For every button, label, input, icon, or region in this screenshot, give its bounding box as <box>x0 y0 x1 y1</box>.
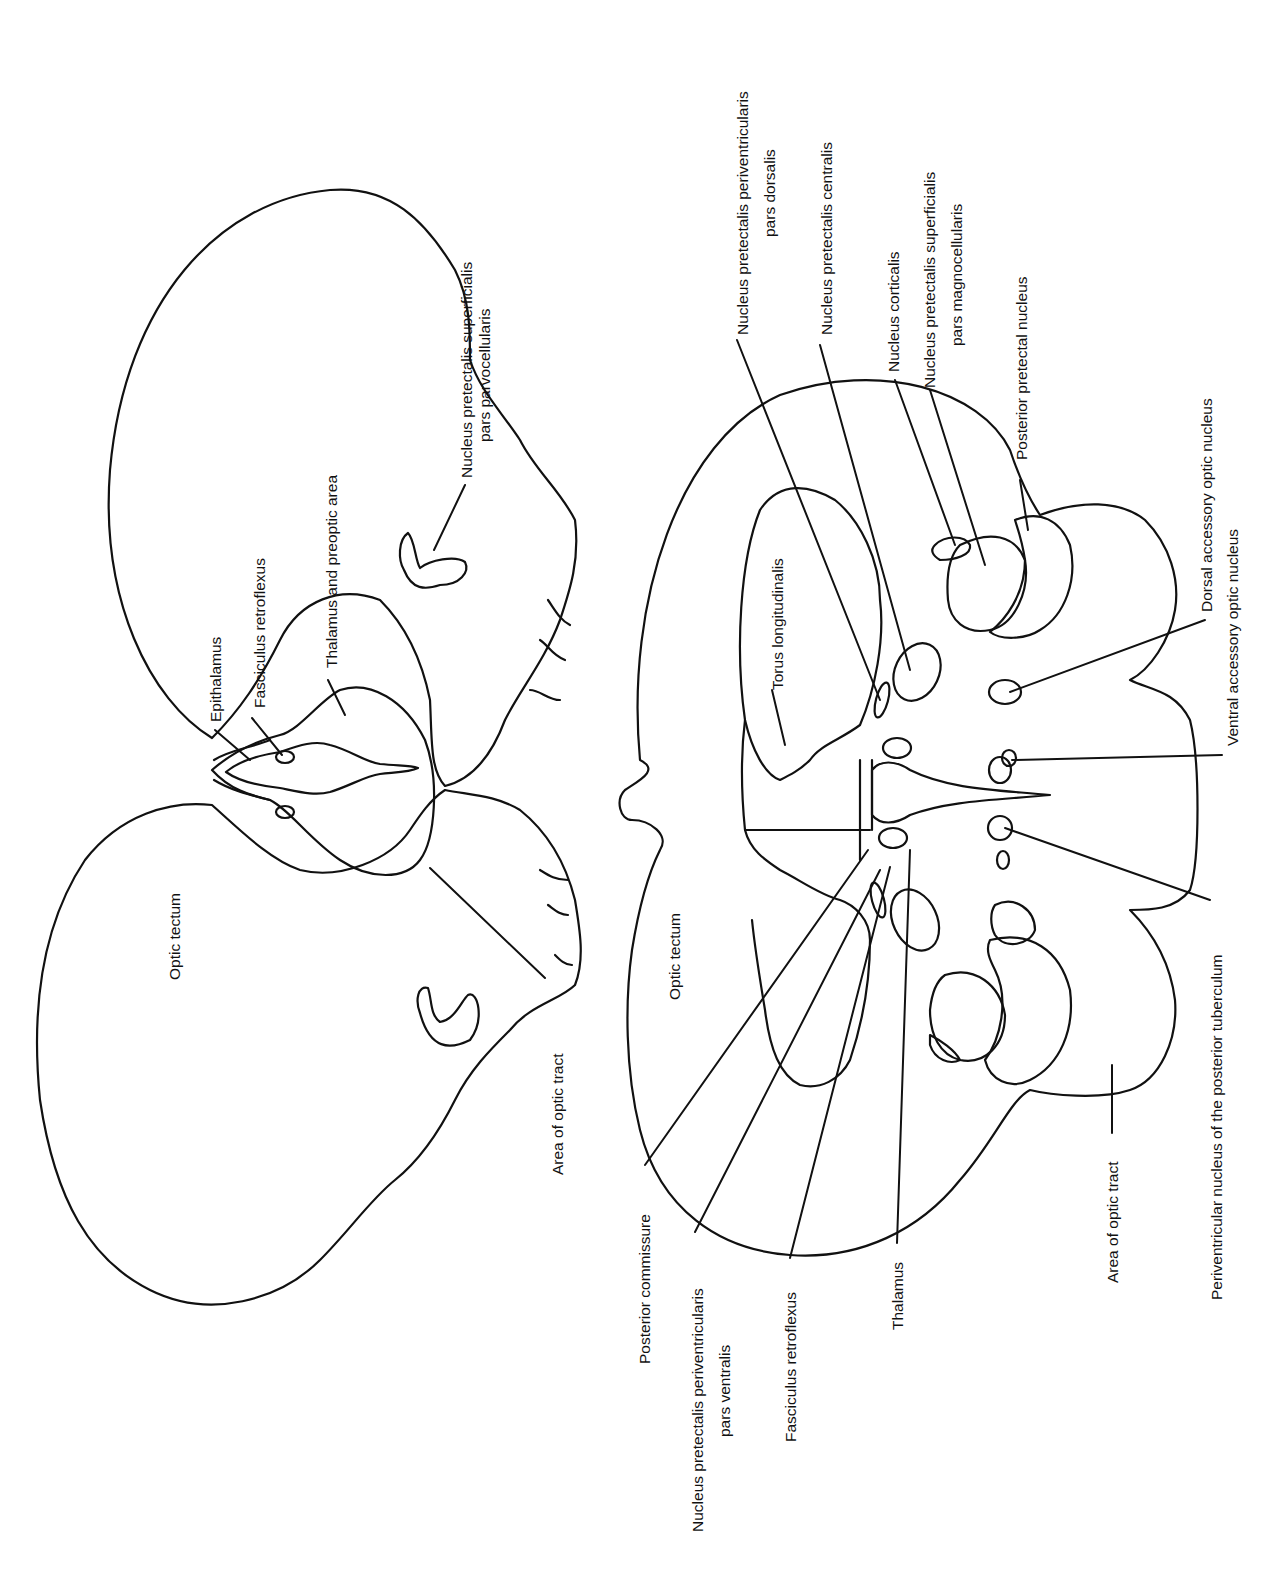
label-right-area-of-optic-tract: Area of optic tract <box>1104 1161 1121 1283</box>
leader-nucleus-corticalis <box>895 380 955 545</box>
right-posterior-pretectal-shape <box>990 516 1072 638</box>
label-npc: Nucleus pretectalis centralis <box>818 142 835 335</box>
leader-left-optic-tract <box>430 868 545 978</box>
left-upper-ridges <box>530 600 570 700</box>
leader-npc <box>820 345 910 670</box>
right-lower-oval <box>882 882 949 959</box>
label-posterior-commissure: Posterior commissure <box>636 1214 653 1364</box>
right-torus-outline <box>740 488 881 780</box>
right-periventricular-pt-shape <box>988 816 1012 840</box>
label-nppd-line2: pars dorsalis <box>761 149 778 237</box>
label-posterior-pretectal: Posterior pretectal nucleus <box>1013 276 1030 460</box>
label-nppd-line1: Nucleus pretectalis periventricularis <box>734 91 751 335</box>
label-dorsal-accessory: Dorsal accessory optic nucleus <box>1198 398 1215 612</box>
left-section: Optic tectum Area of optic tract Epithal… <box>37 190 581 1305</box>
right-lower-cluster-b <box>985 937 1071 1083</box>
leader-ventral-accessory <box>1012 755 1222 760</box>
right-outer-outline <box>620 380 1198 1255</box>
label-left-optic-tectum: Optic tectum <box>166 893 183 980</box>
right-ventricle <box>872 763 1050 823</box>
label-right-fasciculus-retroflexus: Fasciculus retroflexus <box>782 1292 799 1442</box>
right-small-nucleus-b <box>883 738 911 758</box>
label-npsm-line2: pars magnocellularis <box>948 204 965 346</box>
label-ventral-accessory: Ventral accessory optic nucleus <box>1224 529 1241 746</box>
left-ventricle <box>226 743 418 794</box>
left-fasciculus-nucleus-upper <box>276 751 294 763</box>
label-left-area-of-optic-tract: Area of optic tract <box>549 1053 566 1175</box>
right-small-nucleus-c <box>997 851 1009 869</box>
label-thalamus: Thalamus <box>889 1262 906 1330</box>
leader-npsm <box>930 390 985 565</box>
label-nppv-line2: pars ventralis <box>716 1345 733 1437</box>
left-npsp-upper-shape <box>400 533 466 588</box>
label-torus-longitudinalis: Torus longitudinalis <box>769 558 786 690</box>
right-npc-shape <box>884 636 949 709</box>
label-npsp-line2: pars parvocellularis <box>476 308 493 442</box>
label-npsp-line1: Nucleus pretectalis superficialis <box>458 262 475 478</box>
leader-torus <box>772 690 785 745</box>
right-dorsal-accessory-shape <box>989 680 1021 704</box>
right-nucleus-corticalis-shape <box>932 538 970 561</box>
left-lower-ridges <box>540 870 572 965</box>
right-small-nucleus-d <box>879 828 907 848</box>
label-right-optic-tectum: Optic tectum <box>666 913 683 1000</box>
label-thalamus-preoptic-area: Thalamus and preoptic area <box>323 475 340 668</box>
label-periventricular-pt: Periventricular nucleus of the posterior… <box>1208 955 1225 1300</box>
left-lower-tectum-outline <box>37 790 581 1304</box>
right-npsm-shape <box>948 537 1026 631</box>
leader-nppd <box>737 340 880 700</box>
label-left-fasciculus-retroflexus: Fasciculus retroflexus <box>251 558 268 708</box>
left-upper-tectum-outline <box>109 190 577 786</box>
leader-left-npsp <box>434 485 465 550</box>
right-small-nucleus-a <box>989 757 1011 783</box>
label-npsm-line1: Nucleus pretectalis superficialis <box>921 172 938 388</box>
label-nucleus-corticalis: Nucleus corticalis <box>885 251 902 372</box>
left-npsp-lower-shape <box>418 988 479 1046</box>
leader-thalamus <box>897 850 910 1243</box>
right-torus-lower <box>742 720 870 1086</box>
right-periventricular-wall <box>860 760 872 860</box>
leader-posterior-commissure <box>645 850 868 1165</box>
leader-right-fasciculus <box>790 867 890 1258</box>
brain-section-diagram: Optic tectum Area of optic tract Epithal… <box>0 0 1267 1582</box>
right-lower-cluster-c <box>930 972 1005 1060</box>
label-nppv-line1: Nucleus pretectalis periventricularis <box>689 1288 706 1532</box>
label-epithalamus: Epithalamus <box>207 636 224 722</box>
right-section: Optic tectum Torus longitudinalis Nucleu… <box>620 91 1241 1532</box>
leader-periventricular-pt <box>1005 828 1210 900</box>
